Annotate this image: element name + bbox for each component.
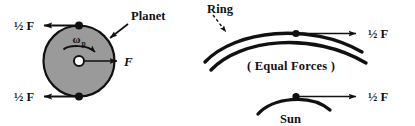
spin-symbol-label: ω [73, 33, 81, 45]
figure-canvas: ω p F ½ F ½ F Planet [0, 0, 415, 126]
ring-force-label: ½ F [368, 27, 389, 41]
bottom-force-label: ½ F [14, 90, 35, 104]
ring-node-icon [292, 30, 299, 37]
ring-label: Ring [207, 2, 234, 16]
ring-sun-group: ½ F Ring ( Equal Forces ) ½ F Sun [205, 2, 389, 126]
equal-forces-note: ( Equal Forces ) [247, 59, 335, 73]
sun-label: Sun [280, 112, 301, 126]
spin-symbol-subscript: p [82, 39, 86, 48]
top-force-label: ½ F [14, 19, 35, 33]
sun-force-label: ½ F [368, 90, 389, 104]
planet-hub-icon [74, 56, 84, 66]
planet-label: Planet [131, 9, 166, 23]
center-force-label: F [123, 54, 133, 69]
planet-leader-arrow-icon [110, 24, 128, 38]
physics-figure: ω p F ½ F ½ F Planet [0, 0, 415, 126]
planet-group: ω p F ½ F ½ F Planet [14, 9, 166, 104]
sun-node-icon [292, 93, 299, 100]
ring-leader-arrow-icon [213, 15, 226, 32]
